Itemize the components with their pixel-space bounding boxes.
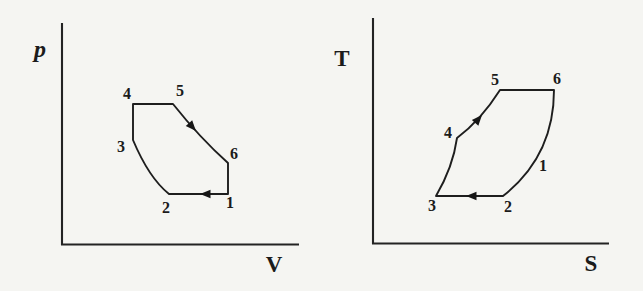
pv-state-label-2: 2: [162, 199, 170, 216]
pv-state-label-3: 3: [117, 138, 125, 155]
pv-state-label-5: 5: [176, 82, 184, 99]
pv-state-label-4: 4: [123, 85, 131, 102]
ts-cycle-path: [436, 90, 554, 196]
pv-cycle-path: [133, 104, 228, 194]
pv-state-label-1: 1: [226, 194, 234, 211]
ts-diagram: T S 1 2 3 4 5 6: [334, 18, 609, 276]
ts-state-label-5: 5: [491, 71, 499, 88]
ts-y-axis-label: T: [334, 46, 349, 71]
ts-state-label-1: 1: [539, 157, 547, 174]
ts-state-label-2: 2: [504, 198, 512, 215]
ts-x-axis-label: S: [585, 251, 598, 276]
thermodynamic-cycles-figure: p V 1 2 3 4 5 6 T S 1 2 3 4 5 6: [0, 0, 643, 291]
ts-state-label-4: 4: [444, 124, 452, 141]
ts-state-label-3: 3: [428, 197, 436, 214]
pv-y-axis-label: p: [32, 36, 46, 62]
pv-diagram: p V 1 2 3 4 5 6: [32, 23, 299, 277]
pv-arrow-1-2-icon: [200, 190, 211, 199]
pv-state-label-6: 6: [230, 145, 238, 162]
ts-arrow-2-3-icon: [466, 192, 477, 201]
ts-state-label-6: 6: [553, 70, 561, 87]
pv-x-axis-label: V: [266, 252, 283, 277]
